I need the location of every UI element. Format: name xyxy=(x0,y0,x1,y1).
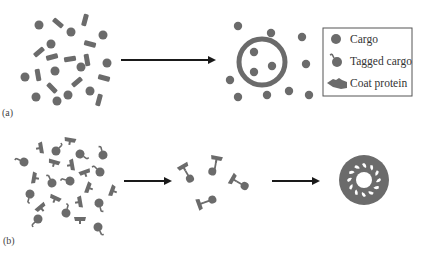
legend-label-coat-protein: Coat protein xyxy=(350,77,407,90)
scattered-tagged-cargo-and-coat-b xyxy=(14,137,118,235)
vesicle-a xyxy=(239,39,285,85)
panel-b: (b) xyxy=(3,137,389,247)
diagram-canvas: Cargo Tagged cargo Coat protein (a) xyxy=(0,0,434,257)
legend-label-tagged-cargo: Tagged cargo xyxy=(350,55,412,68)
cargo-icon xyxy=(331,34,341,44)
legend-label-cargo: Cargo xyxy=(350,33,378,46)
panel-label-b: (b) xyxy=(3,235,15,247)
bound-complexes-b xyxy=(177,155,251,211)
panel-label-a: (a) xyxy=(2,107,13,119)
legend: Cargo Tagged cargo Coat protein xyxy=(323,28,412,96)
legend-item-coat-protein: Coat protein xyxy=(327,77,407,90)
scattered-cargo-and-coat-a xyxy=(21,14,112,107)
coated-vesicle-b xyxy=(339,155,389,205)
panel-a: Cargo Tagged cargo Coat protein (a) xyxy=(2,14,412,119)
